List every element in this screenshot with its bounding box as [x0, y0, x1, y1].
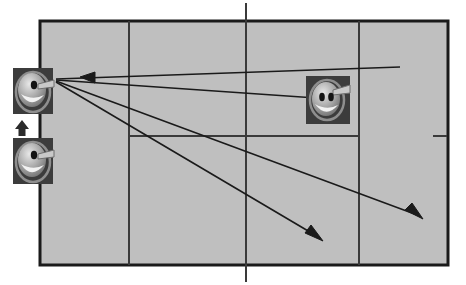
court-surface	[40, 21, 448, 265]
player-sprite-left-top[interactable]	[13, 68, 54, 114]
court-outer-boundary	[40, 21, 448, 265]
up-arrow-icon	[15, 120, 29, 136]
scene-root: Tennis court shot diagram top-down tenni…	[0, 0, 466, 285]
sprite-eye-left	[319, 93, 325, 101]
sprite-eye	[31, 81, 37, 89]
move-up-arrow[interactable]	[15, 120, 29, 136]
player-sprite-left-bottom[interactable]	[13, 138, 54, 184]
sprite-eye-right	[328, 93, 334, 101]
court-diagram	[0, 0, 466, 285]
sprite-eye	[31, 151, 37, 159]
player-sprite-right[interactable]	[306, 76, 350, 124]
